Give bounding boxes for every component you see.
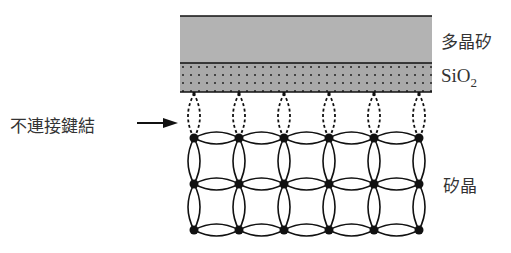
- sio2-label: SiO2: [441, 65, 477, 91]
- silicon-atom: [190, 134, 199, 143]
- silicon-atom: [370, 180, 379, 189]
- sio2-layer: [180, 63, 432, 92]
- silicon-atom: [235, 134, 244, 143]
- dangling-bonds: [188, 92, 425, 138]
- silicon-atoms: [190, 134, 424, 235]
- polysilicon-layer: [180, 16, 432, 63]
- silicon-atom: [325, 134, 334, 143]
- polysilicon-label: 多晶矽: [441, 28, 492, 53]
- silicon-atom: [190, 226, 199, 235]
- silicon-atom: [370, 226, 379, 235]
- silicon-atom: [415, 134, 424, 143]
- lattice-bonds: [188, 132, 425, 236]
- silicon-atom: [325, 226, 334, 235]
- silicon-atom: [370, 134, 379, 143]
- sio2-main: SiO: [441, 65, 471, 86]
- silicon-atom: [280, 226, 289, 235]
- silicon-atom: [325, 180, 334, 189]
- silicon-atom: [235, 180, 244, 189]
- silicon-atom: [190, 180, 199, 189]
- dangling-bonds-label: 不連接鍵結: [10, 112, 95, 137]
- silicon-atom: [235, 226, 244, 235]
- silicon-atom: [415, 180, 424, 189]
- silicon-atom: [280, 134, 289, 143]
- silicon-crystal-label: 矽晶: [443, 172, 477, 197]
- sio2-subscript: 2: [471, 75, 478, 90]
- silicon-atom: [415, 226, 424, 235]
- arrow-icon: [137, 118, 178, 128]
- silicon-atom: [280, 180, 289, 189]
